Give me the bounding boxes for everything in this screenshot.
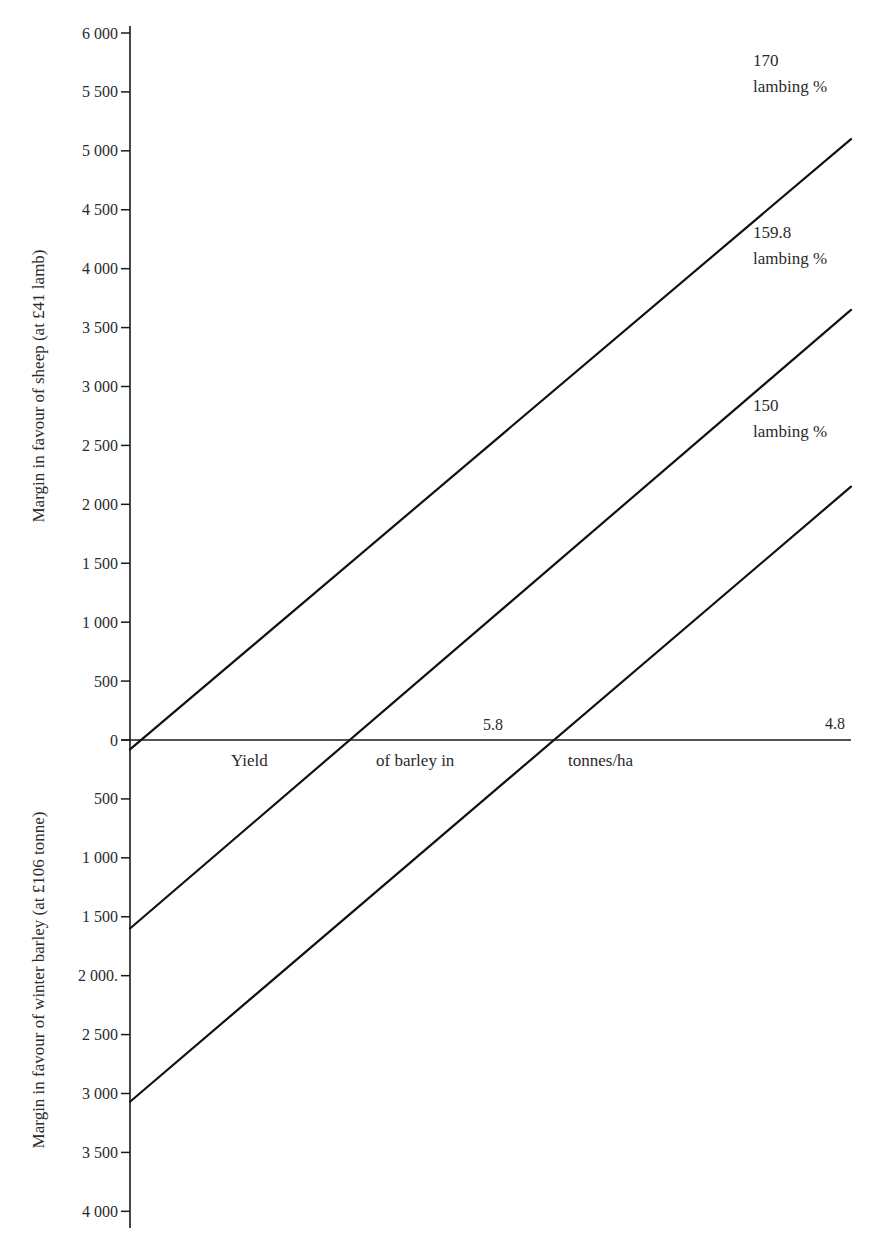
series-lines [130,139,851,1102]
y-tick-label: 1 500 [82,555,118,572]
x-axis-label-tonnes: tonnes/ha [568,751,634,770]
y-axis-title-barley: Margin in favour of winter barley (at £1… [29,812,48,1149]
y-tick-label: 4 000 [82,1203,118,1220]
y-tick-label: 4 000 [82,260,118,277]
series-line [130,139,851,749]
series-label-value: 150 [753,396,779,415]
y-tick-label: 500 [94,673,118,690]
y-tick-label: 3 000 [82,1085,118,1102]
y-axis: 6 0005 5005 0004 5004 0003 5003 0002 500… [78,25,130,1229]
x-tick-label-5-8: 5.8 [483,716,503,733]
y-tick-label: 1 000 [82,614,118,631]
series-label-value: 159.8 [753,223,791,242]
series-line [130,487,851,1102]
y-tick-label: 3 000 [82,378,118,395]
series-line [130,310,851,929]
y-tick-label: 1 000 [82,849,118,866]
y-tick-label: 6 000 [82,25,118,42]
series-label-unit: lambing % [753,422,827,441]
y-tick-label: 5 000 [82,142,118,159]
x-axis-label-of-barley: of barley in [376,751,455,770]
series-label-unit: lambing % [753,77,827,96]
y-tick-label: 2 000 [82,496,118,513]
y-tick-label: 4 500 [82,201,118,218]
y-tick-label: 2 500 [82,1026,118,1043]
series-label-value: 170 [753,51,779,70]
y-axis-title-sheep: Margin in favour of sheep (at £41 lamb) [29,249,48,522]
y-tick-label: 3 500 [82,319,118,336]
y-tick-label: 0 [110,732,118,749]
x-axis-label-yield: Yield [231,751,268,770]
y-tick-label: 1 500 [82,908,118,925]
y-tick-label: 2 500 [82,437,118,454]
y-tick-label: 3 500 [82,1144,118,1161]
y-tick-label: 5 500 [82,83,118,100]
chart: 6 0005 5005 0004 5004 0003 5003 0002 500… [0,0,878,1242]
y-tick-label: 2 000. [78,967,118,984]
series-label-unit: lambing % [753,249,827,268]
x-tick-label-4-8: 4.8 [825,715,845,732]
series-labels: 170lambing %159.8lambing %150lambing % [753,51,827,441]
y-tick-label: 500 [94,790,118,807]
